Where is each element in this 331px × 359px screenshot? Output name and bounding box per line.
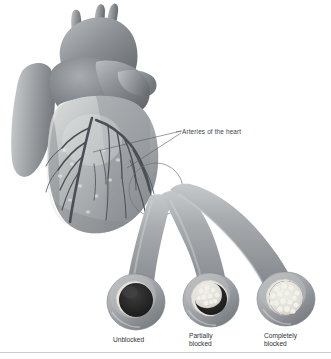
arteries-callout-label: Arteries of the heart xyxy=(182,128,241,135)
heart-illustration xyxy=(11,3,160,240)
illustration-canvas xyxy=(0,0,331,359)
heart-arteries-figure: Arteries of the heart Unblocked Partiall… xyxy=(0,0,331,359)
vessel-caption-unblocked: Unblocked xyxy=(113,336,144,344)
bottom-divider xyxy=(0,352,331,353)
vessel-caption-partially-blocked: Partially blocked xyxy=(189,332,212,348)
cross-section-completely-blocked xyxy=(257,272,315,326)
cross-section-partially-blocked xyxy=(183,273,239,327)
cross-section-unblocked xyxy=(107,274,165,330)
vessel-caption-completely-blocked: Completely blocked xyxy=(264,332,297,348)
